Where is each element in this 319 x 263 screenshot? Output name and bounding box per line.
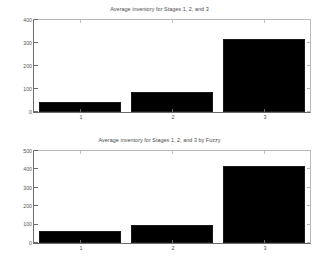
y-tick-right-bottom-0 [307, 242, 310, 243]
x-tick-top-bottom-2 [172, 151, 173, 154]
x-tick-label-bottom-2: 2 [172, 245, 175, 251]
y-tick-bottom-100: 100 [34, 224, 38, 225]
y-tick-label-bottom-500: 500 [23, 148, 32, 154]
y-tick-right-top-100 [307, 88, 310, 89]
bars-layer-top [34, 20, 310, 112]
x-tick-top-top-3 [264, 20, 265, 23]
y-tick-label-bottom-100: 100 [23, 221, 32, 227]
y-tick-top-0: 0 [34, 111, 38, 112]
x-tick-label-top-2: 2 [172, 114, 175, 120]
y-tick-bottom-300: 300 [34, 187, 38, 188]
bars-layer-bottom [34, 151, 310, 243]
y-tick-bottom-200: 200 [34, 205, 38, 206]
y-tick-right-bottom-500 [307, 150, 310, 151]
x-tick-bottom-2: 2 [172, 240, 173, 243]
x-tick-top-2: 2 [172, 109, 173, 112]
y-tick-right-bottom-300 [307, 187, 310, 188]
y-tick-bottom-0: 0 [34, 242, 38, 243]
x-tick-top-1: 1 [80, 109, 81, 112]
y-tick-label-top-400: 400 [23, 17, 32, 23]
y-tick-label-bottom-400: 400 [23, 166, 32, 172]
y-tick-right-bottom-100 [307, 224, 310, 225]
y-tick-right-bottom-200 [307, 205, 310, 206]
chart-figure-bottom: Average inventory for Stages 1, 2, and 3… [0, 131, 319, 262]
y-tick-right-top-200 [307, 65, 310, 66]
x-tick-top-3: 3 [264, 109, 265, 112]
y-tick-right-bottom-400 [307, 168, 310, 169]
y-tick-bottom-500: 500 [34, 150, 38, 151]
x-tick-label-top-3: 3 [264, 114, 267, 120]
y-tick-label-top-100: 100 [23, 86, 32, 92]
y-tick-top-300: 300 [34, 42, 38, 43]
y-tick-bottom-400: 400 [34, 168, 38, 169]
y-tick-right-top-400 [307, 19, 310, 20]
x-tick-label-bottom-3: 3 [264, 245, 267, 251]
y-tick-right-top-0 [307, 111, 310, 112]
y-tick-label-top-200: 200 [23, 63, 32, 69]
y-tick-label-bottom-0: 0 [29, 240, 32, 246]
chart-figure-top: Average inventory for Stages 1, 2, and 3… [0, 0, 319, 131]
x-tick-label-bottom-1: 1 [80, 245, 83, 251]
x-tick-bottom-1: 1 [80, 240, 81, 243]
x-tick-top-bottom-1 [80, 151, 81, 154]
plot-area-bottom: 0100200300400500123 [33, 150, 311, 244]
plot-area-top: 0100200300400123 [33, 19, 311, 113]
y-tick-right-top-300 [307, 42, 310, 43]
x-tick-top-bottom-3 [264, 151, 265, 154]
y-tick-top-400: 400 [34, 19, 38, 20]
bar-top-3 [223, 39, 304, 112]
y-tick-label-bottom-300: 300 [23, 185, 32, 191]
chart-title-bottom: Average inventory for Stages 1, 2, and 3… [0, 137, 319, 143]
y-tick-label-top-0: 0 [29, 109, 32, 115]
x-tick-bottom-3: 3 [264, 240, 265, 243]
bar-bottom-3 [223, 166, 304, 243]
y-tick-top-100: 100 [34, 88, 38, 89]
chart-title-top: Average inventory for Stages 1, 2, and 3 [0, 6, 319, 12]
y-tick-label-bottom-200: 200 [23, 203, 32, 209]
x-tick-label-top-1: 1 [80, 114, 83, 120]
y-tick-label-top-300: 300 [23, 40, 32, 46]
y-tick-top-200: 200 [34, 65, 38, 66]
x-tick-top-top-1 [80, 20, 81, 23]
x-tick-top-top-2 [172, 20, 173, 23]
